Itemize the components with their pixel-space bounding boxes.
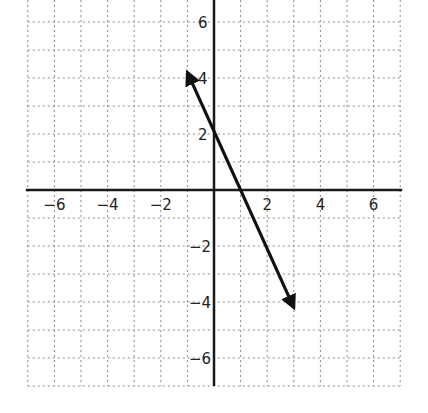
y-tick-label: 2 — [198, 126, 208, 144]
coordinate-plane: −6−4−2246642−2−4−6 — [0, 0, 428, 413]
x-tick-label: 6 — [369, 196, 379, 214]
y-tick-label: −2 — [189, 238, 211, 256]
x-tick-label: −4 — [97, 196, 119, 214]
x-tick-label: −2 — [150, 196, 172, 214]
x-tick-label: 4 — [316, 196, 326, 214]
x-tick-label: 2 — [262, 196, 272, 214]
y-tick-label: 6 — [198, 14, 208, 32]
y-tick-label: 4 — [198, 70, 208, 88]
y-tick-label: −4 — [189, 294, 211, 312]
x-tick-label: −6 — [43, 196, 65, 214]
axes — [26, 0, 402, 386]
y-tick-label: −6 — [189, 350, 211, 368]
